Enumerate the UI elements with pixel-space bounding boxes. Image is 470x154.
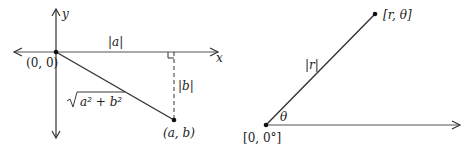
angle-label: θ bbox=[280, 110, 288, 124]
horizontal-leg-label: |a| bbox=[108, 35, 123, 49]
hypotenuse-radicand: a² + b² bbox=[80, 95, 122, 109]
vertical-leg-label: |b| bbox=[178, 79, 194, 93]
cartesian-diagram: y x |a| |b| (0, 0) (a, b) a² + b² bbox=[14, 7, 223, 140]
x-axis-label: x bbox=[216, 51, 223, 65]
y-axis-label: y bbox=[61, 7, 69, 21]
point-r-theta bbox=[373, 12, 378, 17]
polar-point-label: [r, θ] bbox=[383, 8, 412, 22]
hypotenuse-label: a² + b² bbox=[67, 92, 125, 109]
point-ab bbox=[172, 118, 177, 123]
origin-point bbox=[54, 50, 59, 55]
diagram-canvas: y x |a| |b| (0, 0) (a, b) a² + b² [r, θ]… bbox=[0, 0, 470, 154]
origin-label: (0, 0) bbox=[26, 56, 58, 70]
right-angle-marker-icon bbox=[168, 52, 174, 58]
pole-point bbox=[264, 123, 269, 128]
hypotenuse-line bbox=[56, 52, 174, 120]
radius-ray bbox=[266, 14, 375, 125]
polar-diagram: [r, θ] |r| θ [0, 0°] bbox=[243, 8, 460, 145]
pole-label: [0, 0°] bbox=[243, 131, 281, 145]
ray-label: |r| bbox=[305, 58, 319, 72]
point-label: (a, b) bbox=[163, 126, 195, 140]
